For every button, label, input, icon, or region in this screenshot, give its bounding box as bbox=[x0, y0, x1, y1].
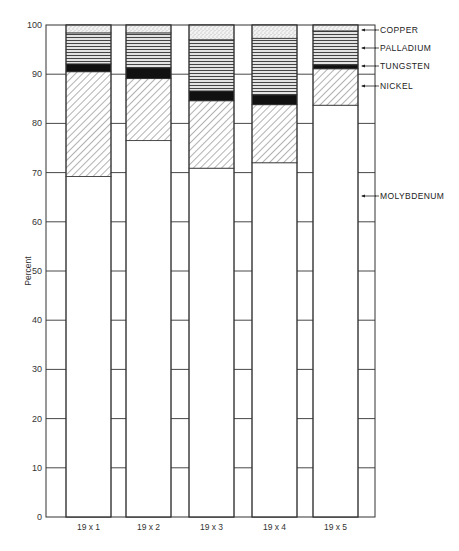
bars bbox=[66, 25, 358, 517]
segment-copper bbox=[189, 25, 234, 40]
y-tick-label: 10 bbox=[32, 463, 42, 473]
legend-item-molybdenum: MOLYBDENUM bbox=[361, 191, 444, 201]
x-tick-label: 19 x 5 bbox=[324, 522, 347, 532]
bar-19x1 bbox=[66, 25, 111, 517]
segment-molybdenum bbox=[66, 177, 111, 517]
y-tick-label: 70 bbox=[32, 168, 42, 178]
segment-molybdenum bbox=[252, 163, 297, 517]
x-axis: 19 x 119 x 219 x 319 x 419 x 5 bbox=[77, 522, 347, 532]
y-tick-label: 50 bbox=[32, 266, 42, 276]
y-tick-label: 90 bbox=[32, 69, 42, 79]
stacked-bar-chart: 0102030405060708090100 19 x 119 x 219 x … bbox=[0, 0, 459, 551]
segment-tungsten bbox=[313, 65, 358, 69]
segment-nickel bbox=[126, 79, 171, 141]
segment-tungsten bbox=[252, 95, 297, 105]
segment-molybdenum bbox=[189, 168, 234, 517]
legend-label: NICKEL bbox=[380, 81, 413, 91]
legend: COPPERPALLADIUMTUNGSTENNICKELMOLYBDENUM bbox=[361, 25, 444, 201]
bar-19x2 bbox=[126, 25, 171, 517]
segment-copper bbox=[66, 25, 111, 33]
x-tick-label: 19 x 3 bbox=[200, 522, 223, 532]
segment-tungsten bbox=[126, 68, 171, 79]
y-tick-label: 100 bbox=[27, 20, 42, 30]
legend-item-copper: COPPER bbox=[361, 25, 418, 35]
segment-nickel bbox=[189, 101, 234, 168]
arrow-icon bbox=[361, 64, 365, 67]
arrow-icon bbox=[361, 28, 365, 31]
segment-palladium bbox=[189, 40, 234, 91]
y-tick-label: 60 bbox=[32, 217, 42, 227]
segment-nickel bbox=[313, 69, 358, 105]
arrow-icon bbox=[361, 84, 365, 87]
x-tick-label: 19 x 4 bbox=[263, 522, 286, 532]
y-axis-label: Percent bbox=[23, 256, 33, 286]
y-tick-label: 40 bbox=[32, 315, 42, 325]
legend-item-tungsten: TUNGSTEN bbox=[361, 61, 430, 71]
segment-copper bbox=[313, 25, 358, 31]
y-tick-label: 30 bbox=[32, 364, 42, 374]
bar-19x3 bbox=[189, 25, 234, 517]
segment-copper bbox=[126, 25, 171, 33]
y-tick-label: 80 bbox=[32, 118, 42, 128]
segment-copper bbox=[252, 25, 297, 38]
arrow-icon bbox=[361, 194, 365, 197]
legend-item-nickel: NICKEL bbox=[361, 81, 413, 91]
segment-palladium bbox=[252, 38, 297, 95]
bar-19x4 bbox=[252, 25, 297, 517]
legend-label: PALLADIUM bbox=[380, 43, 431, 53]
y-tick-label: 0 bbox=[37, 512, 42, 522]
legend-item-palladium: PALLADIUM bbox=[361, 43, 431, 53]
segment-tungsten bbox=[189, 91, 234, 101]
legend-label: TUNGSTEN bbox=[380, 61, 430, 71]
bar-19x5 bbox=[313, 25, 358, 517]
segment-palladium bbox=[313, 31, 358, 65]
x-tick-label: 19 x 1 bbox=[77, 522, 100, 532]
segment-nickel bbox=[66, 72, 111, 177]
segment-molybdenum bbox=[313, 105, 358, 517]
segment-molybdenum bbox=[126, 141, 171, 517]
segment-nickel bbox=[252, 105, 297, 163]
y-tick-label: 20 bbox=[32, 414, 42, 424]
arrow-icon bbox=[361, 46, 365, 49]
legend-label: COPPER bbox=[380, 25, 418, 35]
segment-tungsten bbox=[66, 64, 111, 72]
legend-label: MOLYBDENUM bbox=[380, 191, 444, 201]
x-tick-label: 19 x 2 bbox=[137, 522, 160, 532]
segment-palladium bbox=[126, 33, 171, 68]
segment-palladium bbox=[66, 33, 111, 64]
